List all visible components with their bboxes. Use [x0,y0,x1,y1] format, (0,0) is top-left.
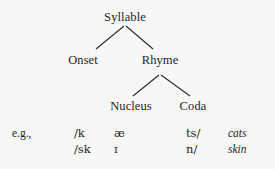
tree-node-syllable: Syllable [104,11,146,24]
branch-rhyme-coda [161,75,190,96]
tree-node-nucleus: Nucleus [110,100,152,113]
branch-syllable-onset [96,26,124,49]
branch-syllable-rhyme [126,26,153,49]
example-row2-word: skin [228,143,247,156]
syllable-tree-figure: Syllable Onset Rhyme Nucleus Coda e.g., … [0,0,275,169]
example-row2-nucleus: ɪ [114,143,118,156]
example-row1-word: cats [228,127,247,140]
branch-rhyme-nucleus [133,75,159,96]
example-row1-onset: /k [74,127,85,140]
tree-node-onset: Onset [68,54,98,67]
example-row2-onset: /sk [74,143,91,156]
example-row1-nucleus: æ [114,127,125,140]
tree-node-rhyme: Rhyme [142,54,179,67]
example-row2-coda: n/ [186,143,197,156]
tree-node-coda: Coda [180,100,207,113]
example-row1-coda: ts/ [186,127,200,140]
examples-lead-label: e.g., [12,127,31,140]
